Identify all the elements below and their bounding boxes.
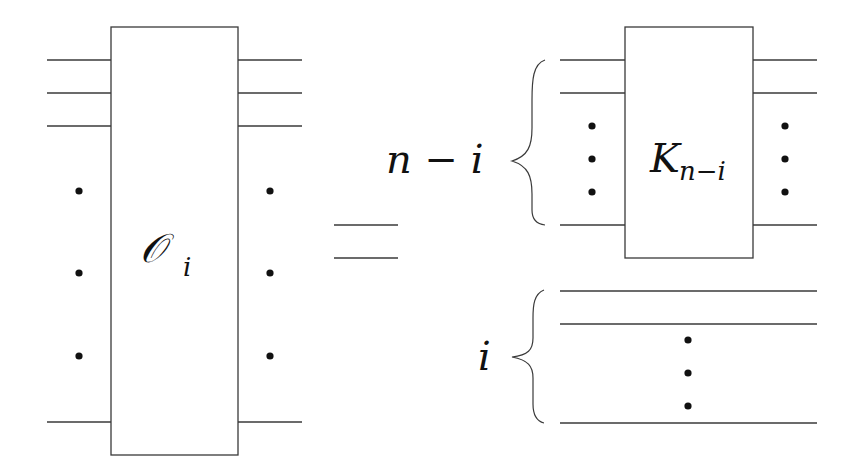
oracle-gate-box	[111, 27, 238, 455]
right-top-circuit: n − i K n−i	[386, 27, 817, 258]
brace-label-n-minus-i: n − i	[386, 136, 484, 182]
right-bottom-circuit: i	[478, 290, 817, 423]
left-input-wires	[47, 60, 111, 422]
k-left-ellipsis-dots	[588, 122, 595, 195]
right-ellipsis-dots	[266, 187, 273, 359]
brace-label-i: i	[478, 333, 491, 379]
k-output-wires	[753, 60, 817, 225]
circuit-diagram: 𝒪 i n − i K n−i	[0, 0, 862, 472]
bottom-curly-brace	[512, 290, 544, 423]
equals-sign	[334, 225, 398, 258]
left-ellipsis-dots	[75, 187, 82, 359]
k-input-wires	[560, 60, 625, 225]
left-output-wires	[238, 60, 302, 422]
left-circuit: 𝒪 i	[47, 27, 302, 455]
k-gate-label: K	[649, 135, 682, 181]
idle-ellipsis-dots	[684, 336, 691, 409]
top-curly-brace	[512, 60, 545, 225]
oracle-gate-subscript: i	[183, 252, 191, 282]
k-gate-box	[625, 27, 753, 258]
k-right-ellipsis-dots	[781, 122, 788, 195]
k-gate-subscript: n−i	[679, 156, 726, 186]
